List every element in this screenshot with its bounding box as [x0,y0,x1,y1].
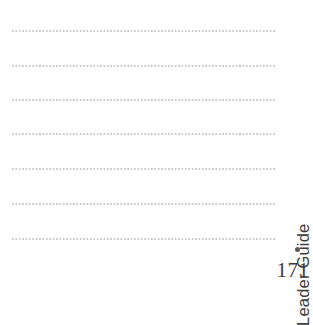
page-number: 171 [277,260,309,281]
writing-line [12,99,276,101]
writing-line [12,65,276,67]
writing-line [12,30,276,32]
writing-line [12,133,276,135]
writing-line [12,238,276,240]
bullet-dot-icon [295,247,300,252]
writing-lines-area [12,0,276,283]
writing-line [12,203,276,205]
side-rail: Leader Guide 171 [276,0,313,283]
writing-line [12,168,276,170]
